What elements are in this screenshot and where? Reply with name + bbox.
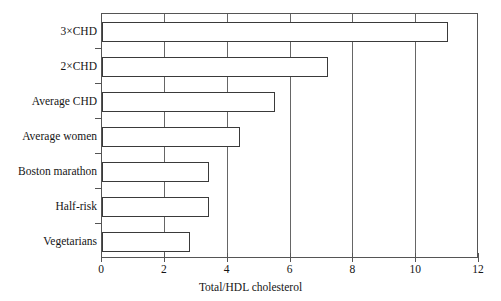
y-tick-label: Average CHD bbox=[32, 95, 97, 107]
y-tick-mark bbox=[95, 48, 101, 49]
plot-inner bbox=[102, 14, 477, 257]
x-tick-label: 6 bbox=[287, 263, 293, 276]
y-tick-label: 2×CHD bbox=[60, 60, 97, 72]
x-tick-mark bbox=[352, 253, 353, 262]
y-tick-label: Half-risk bbox=[55, 200, 97, 212]
gridline bbox=[290, 14, 291, 257]
x-tick-label: 12 bbox=[472, 263, 484, 276]
gridline bbox=[415, 14, 416, 257]
bar-chart: 3×CHD2×CHDAverage CHDAverage womenBoston… bbox=[0, 0, 501, 301]
y-tick-label: Boston marathon bbox=[18, 165, 97, 177]
y-tick-label: 3×CHD bbox=[60, 25, 97, 37]
x-tick-mark bbox=[164, 253, 165, 262]
y-tick-mark bbox=[95, 188, 101, 189]
y-axis-line bbox=[101, 13, 102, 258]
bar bbox=[102, 162, 209, 182]
bar bbox=[102, 197, 209, 217]
y-tick-mark bbox=[95, 153, 101, 154]
gridline bbox=[352, 14, 353, 257]
y-tick-mark bbox=[95, 223, 101, 224]
x-tick-label: 0 bbox=[98, 263, 104, 276]
plot-area bbox=[101, 13, 478, 258]
bar bbox=[102, 92, 275, 112]
bar bbox=[102, 127, 240, 147]
x-tick-label: 4 bbox=[224, 263, 230, 276]
x-tick-mark bbox=[415, 253, 416, 262]
y-tick-label: Vegetarians bbox=[43, 235, 97, 247]
bar bbox=[102, 57, 328, 77]
bar bbox=[102, 232, 190, 252]
y-tick-mark bbox=[95, 118, 101, 119]
x-tick-label: 2 bbox=[161, 263, 167, 276]
x-axis-title: Total/HDL cholesterol bbox=[0, 281, 501, 293]
x-tick-label: 10 bbox=[409, 263, 421, 276]
x-tick-label: 8 bbox=[349, 263, 355, 276]
x-tick-mark bbox=[478, 253, 479, 262]
x-tick-mark bbox=[290, 253, 291, 262]
bar bbox=[102, 22, 448, 42]
y-tick-mark bbox=[95, 83, 101, 84]
y-tick-label: Average women bbox=[22, 130, 97, 142]
x-tick-mark bbox=[227, 253, 228, 262]
